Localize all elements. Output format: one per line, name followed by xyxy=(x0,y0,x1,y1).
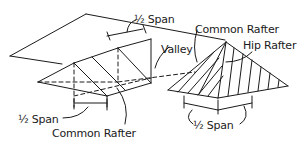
label-common-rafter-top: Common Rafter xyxy=(195,24,279,35)
label-half-span-left: ½ Span xyxy=(18,114,59,125)
label-half-span-right: ½ Span xyxy=(193,120,234,131)
top-dimension xyxy=(107,20,169,68)
label-half-span-top: ½ Span xyxy=(134,14,175,25)
label-valley: Valley xyxy=(161,44,193,55)
label-hip-rafter: Hip Rafter xyxy=(243,40,296,51)
roof-framing-diagram: ½ Span Valley Common Rafter Hip Rafter ½… xyxy=(0,0,302,144)
label-common-rafter-bottom: Common Rafter xyxy=(52,128,136,139)
